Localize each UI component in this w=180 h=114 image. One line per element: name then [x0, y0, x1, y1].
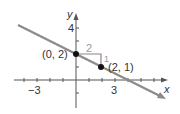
point-label-2-1: (2, 1) [108, 61, 134, 73]
coordinate-plane: y x 4 −3 3 (0, 2) (2, 1) 2 1 [0, 0, 180, 114]
y-axis-label: y [66, 8, 74, 20]
tick-label-3: 3 [111, 84, 117, 96]
y-axis-arrow-icon [74, 13, 79, 20]
rise-label: 1 [104, 54, 109, 64]
point-label-0-2: (0, 2) [42, 48, 68, 60]
x-axis-label: x [163, 83, 170, 95]
point-0-2 [73, 51, 79, 57]
tick-label-neg3: −3 [28, 84, 41, 96]
tick-label-4: 4 [68, 22, 74, 34]
x-axis-arrow-icon [161, 78, 168, 83]
point-2-1 [98, 64, 104, 70]
run-label: 2 [86, 42, 92, 54]
